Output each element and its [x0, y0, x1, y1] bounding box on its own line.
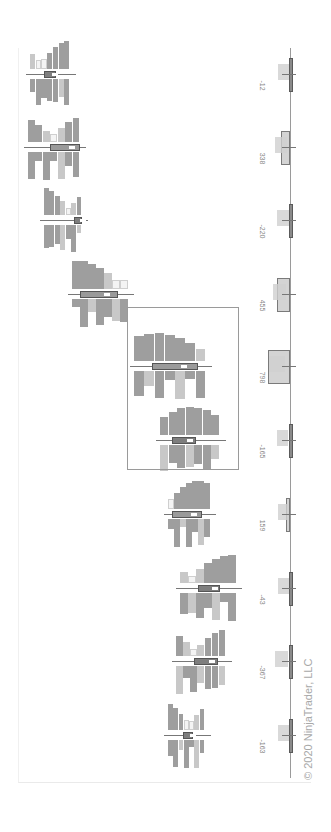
delta-bar-negative: [289, 204, 293, 238]
delta-tick: [282, 220, 296, 221]
bid-volume-cell: [80, 299, 88, 327]
bid-volume-cell: [65, 152, 72, 166]
ask-volume-cell: [59, 43, 64, 69]
ask-volume-cell: [60, 201, 65, 215]
ask-volume-cell: [219, 630, 226, 656]
delta-shadow-bar: [275, 137, 287, 153]
delta-tick: [282, 514, 296, 515]
ask-volume-cell: [204, 483, 210, 509]
ask-volume-cell: [212, 633, 219, 656]
ask-volume-cell: [188, 576, 196, 583]
ask-volume-cell: [55, 196, 60, 215]
bid-volume-cell: [72, 299, 80, 307]
delta-shadow-bar: [278, 504, 289, 520]
delta-tick: [282, 294, 296, 295]
bid-volume-cell: [64, 79, 69, 105]
poc-marker: [80, 219, 86, 222]
delta-value-label: 798: [259, 366, 266, 390]
bar-body: [198, 585, 220, 592]
delta-value-label: -367: [259, 661, 266, 685]
bar-body: [172, 511, 202, 518]
bid-volume-cell: [228, 593, 236, 621]
bid-volume-cell: [44, 225, 49, 248]
delta-tick: [282, 588, 296, 589]
bid-volume-cell: [192, 519, 198, 532]
bid-volume-cell: [176, 666, 183, 694]
bid-volume-cell: [71, 225, 76, 252]
delta-bar-negative: [289, 424, 293, 458]
highlight-box: [127, 307, 239, 470]
bar-body: [50, 144, 80, 151]
poc-marker: [212, 587, 218, 590]
ask-volume-cell: [198, 481, 204, 509]
ask-volume-cell: [77, 197, 82, 215]
copyright-watermark: © 2020 NinjaTrader, LLC: [302, 659, 314, 780]
ask-volume-cell: [66, 208, 71, 215]
bid-volume-cell: [28, 152, 35, 179]
delta-shadow-bar: [278, 725, 289, 741]
bar-body: [74, 217, 82, 224]
delta-shadow-bar: [273, 284, 286, 300]
bid-volume-cell: [189, 740, 194, 747]
ask-volume-cell: [104, 273, 112, 289]
ask-volume-cell: [180, 487, 186, 509]
bid-volume-cell: [58, 152, 65, 179]
bid-volume-cell: [30, 79, 35, 92]
bid-volume-cell: [47, 79, 52, 101]
ask-volume-cell: [43, 131, 50, 142]
delta-bar-negative: [289, 572, 293, 606]
ask-volume-cell: [184, 720, 189, 730]
bid-volume-cell: [219, 666, 226, 685]
bid-volume-cell: [174, 519, 180, 547]
ask-volume-cell: [186, 483, 192, 509]
ask-volume-cell: [47, 53, 52, 69]
ask-volume-cell: [176, 636, 183, 656]
ask-volume-cell: [212, 559, 220, 583]
delta-tick: [282, 735, 296, 736]
bid-volume-cell: [104, 299, 112, 317]
ask-volume-cell: [183, 642, 190, 656]
ask-volume-cell: [179, 714, 184, 730]
bid-volume-cell: [180, 593, 188, 614]
bar-body: [194, 658, 218, 665]
poc-marker: [69, 146, 75, 149]
ask-volume-cell: [96, 268, 104, 289]
ask-volume-cell: [72, 261, 80, 289]
bid-volume-cell: [59, 79, 64, 97]
bid-volume-cell: [183, 666, 190, 678]
bid-volume-cell: [73, 152, 80, 177]
poc-marker: [104, 293, 110, 296]
ask-volume-cell: [205, 638, 212, 656]
bid-volume-cell: [50, 152, 57, 161]
delta-value-label: -163: [259, 735, 266, 759]
bid-volume-cell: [168, 740, 173, 756]
ask-volume-cell: [204, 563, 212, 583]
bid-volume-cell: [194, 740, 199, 768]
bid-volume-cell: [196, 593, 204, 618]
delta-value-label: -43: [259, 588, 266, 612]
ask-volume-cell: [197, 645, 204, 656]
ask-volume-cell: [168, 704, 173, 730]
poc-marker: [191, 513, 197, 516]
bid-volume-cell: [220, 593, 228, 602]
bid-volume-cell: [41, 79, 46, 98]
bar-body: [80, 291, 118, 298]
bid-volume-cell: [55, 225, 60, 244]
delta-value-label: -220: [259, 220, 266, 244]
ask-volume-cell: [44, 188, 49, 215]
ask-volume-cell: [220, 556, 228, 583]
bar-body: [44, 71, 56, 78]
ask-volume-cell: [73, 118, 80, 142]
ask-volume-cell: [65, 122, 72, 142]
ask-volume-cell: [41, 59, 46, 69]
ask-volume-cell: [58, 128, 65, 142]
bid-volume-cell: [173, 740, 178, 767]
ask-volume-cell: [64, 41, 69, 69]
delta-bar-negative: [289, 645, 293, 679]
bid-volume-cell: [188, 593, 196, 613]
bid-volume-cell: [179, 740, 184, 750]
ask-volume-cell: [120, 280, 128, 289]
bid-volume-cell: [43, 152, 50, 180]
bid-volume-cell: [197, 666, 204, 683]
delta-value-label: 338: [259, 147, 266, 171]
